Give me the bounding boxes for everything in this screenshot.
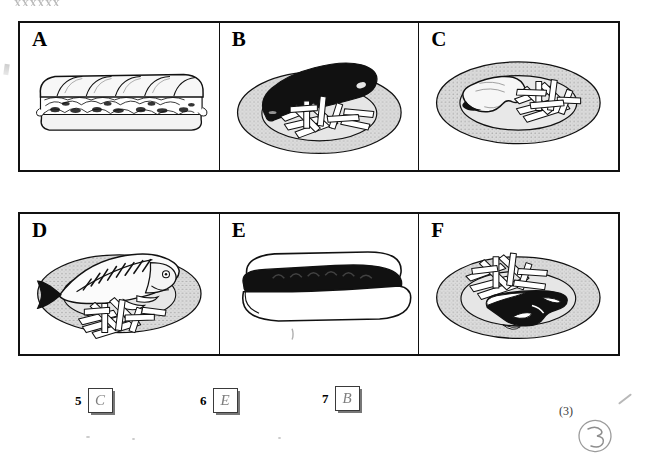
answer-box-7[interactable]: B <box>335 386 360 411</box>
picture-grid-row-2: D <box>18 212 620 356</box>
answer-box-5[interactable]: C <box>88 388 113 413</box>
chicken-plate-icon <box>419 23 618 170</box>
picture-cell-c[interactable]: C <box>419 23 618 170</box>
cropped-header-text: XXXXXX <box>14 0 60 6</box>
steak-plate-icon <box>419 214 618 354</box>
picture-cell-a[interactable]: A <box>20 23 220 170</box>
answer-item-6[interactable]: 6 E <box>200 388 238 413</box>
picture-cell-b[interactable]: B <box>220 23 420 170</box>
scan-speck <box>132 438 135 440</box>
answers-row: 5 C 6 E 7 B <box>0 378 651 434</box>
margin-pencil-mark <box>3 64 9 76</box>
answer-letter-7: B <box>342 391 351 406</box>
worksheet-page: XXXXXX A <box>0 0 651 456</box>
hotdog-icon <box>220 214 419 354</box>
answer-number-6: 6 <box>200 393 207 409</box>
picture-cell-f[interactable]: F <box>419 214 618 354</box>
scan-speck <box>278 437 281 439</box>
answer-box-6[interactable]: E <box>213 388 238 413</box>
sandwich-icon <box>20 23 219 170</box>
answer-item-7[interactable]: 7 B <box>322 386 360 411</box>
picture-cell-e[interactable]: E <box>220 214 420 354</box>
answer-letter-6: E <box>220 393 229 408</box>
fish-plate-icon <box>20 214 219 354</box>
answer-number-5: 5 <box>75 393 82 409</box>
scan-speck <box>86 436 90 438</box>
marks-label: (3) <box>559 404 573 419</box>
answer-item-5[interactable]: 5 C <box>75 388 113 413</box>
answer-letter-5: C <box>95 393 105 408</box>
picture-grid-row-1: A <box>18 21 620 172</box>
picture-cell-d[interactable]: D <box>20 214 220 354</box>
sausage-plate-icon <box>220 23 419 170</box>
handwritten-circled-score <box>576 418 614 454</box>
answer-number-7: 7 <box>322 391 329 407</box>
